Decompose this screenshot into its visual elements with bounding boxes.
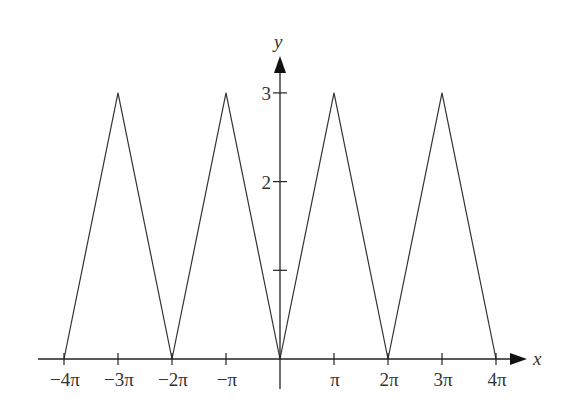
x-tick-label: 2π	[379, 369, 399, 390]
x-axis-arrow-icon	[510, 353, 527, 365]
y-axis-label: y	[272, 31, 283, 52]
y-tick-label: 2	[262, 172, 272, 193]
axes: xy	[38, 31, 542, 389]
chart: xy −4π−3π−2π−ππ2π3π4π23	[0, 0, 576, 410]
x-tick-label: −2π	[158, 369, 188, 390]
tick-labels: −4π−3π−2π−ππ2π3π4π23	[50, 83, 507, 390]
x-tick-label: −3π	[104, 369, 134, 390]
x-tick-label: 3π	[433, 369, 453, 390]
x-tick-label: π	[330, 369, 340, 390]
x-tick-label: −π	[217, 369, 238, 390]
y-tick-label: 3	[262, 83, 272, 104]
x-tick-label: 4π	[487, 369, 507, 390]
x-tick-label: −4π	[50, 369, 80, 390]
y-axis-arrow-icon	[274, 56, 286, 73]
x-axis-label: x	[532, 348, 542, 369]
